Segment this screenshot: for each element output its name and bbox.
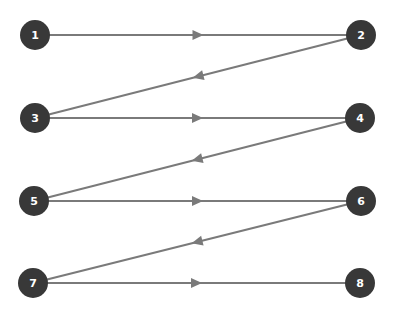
node-label: 4 xyxy=(356,112,364,125)
node-label: 1 xyxy=(31,29,39,42)
arrowhead-icon xyxy=(193,70,205,80)
node-4: 4 xyxy=(345,103,375,133)
node-label: 2 xyxy=(357,29,365,42)
node-1: 1 xyxy=(20,20,50,50)
node-7: 7 xyxy=(18,268,48,298)
arrowhead-icon xyxy=(191,278,202,288)
node-3: 3 xyxy=(20,103,50,133)
node-label: 3 xyxy=(31,112,39,125)
edges xyxy=(33,30,361,288)
flow-diagram: 12345678 xyxy=(0,0,397,315)
arrowhead-icon xyxy=(193,30,204,40)
node-label: 7 xyxy=(29,277,37,290)
arrowhead-icon xyxy=(192,153,204,163)
node-5: 5 xyxy=(19,186,49,216)
arrowhead-icon xyxy=(192,236,204,246)
arrowhead-icon xyxy=(192,113,203,123)
node-6: 6 xyxy=(346,186,376,216)
node-8: 8 xyxy=(345,268,375,298)
arrowhead-icon xyxy=(192,196,203,206)
node-label: 8 xyxy=(356,277,364,290)
node-label: 5 xyxy=(30,195,38,208)
node-2: 2 xyxy=(346,20,376,50)
node-label: 6 xyxy=(357,195,365,208)
